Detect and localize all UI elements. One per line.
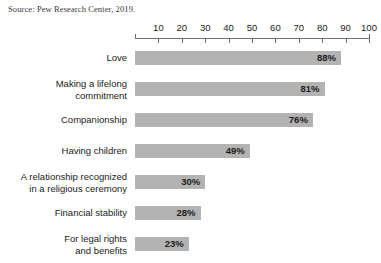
bar-value-label: 81% [301,83,320,94]
x-axis-tick-label: 90 [340,22,351,33]
x-axis-tick-mark [275,38,276,43]
bar-value-label: 88% [317,52,336,63]
category-label: A relationship recognized in a religious… [0,171,127,194]
bar-chart: Source: Pew Research Center, 2019. 10203… [0,0,381,263]
x-axis-tick-mark [252,38,253,43]
bar-row: Financial stability28% [0,206,381,220]
x-axis-tick-mark [299,38,300,43]
bar [135,113,313,127]
x-axis-tick-label: 40 [223,22,234,33]
x-axis-tick-mark [346,38,347,43]
x-axis-tick-label: 20 [177,22,188,33]
bar-row: Love88% [0,51,381,65]
x-axis-left-cap [135,34,136,39]
bar-value-label: 49% [226,145,245,156]
x-axis-tick-mark [158,38,159,43]
bar [135,51,341,65]
category-label: Love [0,52,127,64]
bar-value-label: 28% [177,207,196,218]
bar-value-label: 23% [165,238,184,249]
bar [135,82,325,96]
category-label: Making a lifelong commitment [0,78,127,101]
x-axis-tick-label: 70 [294,22,305,33]
x-axis-tick-mark [205,38,206,43]
bar-value-label: 76% [289,114,308,125]
x-axis-tick-label: 80 [317,22,328,33]
category-label: For legal rights and benefits [0,233,127,256]
bar-row: A relationship recognized in a religious… [0,175,381,189]
x-axis-tick-mark [182,38,183,43]
x-axis-tick-label: 10 [153,22,164,33]
category-label: Companionship [0,114,127,126]
x-axis-tick-mark [369,38,370,43]
x-axis-tick-label: 60 [270,22,281,33]
x-axis-tick-label: 30 [200,22,211,33]
category-label: Having children [0,145,127,157]
bar-row: Making a lifelong commitment81% [0,82,381,96]
category-label: Financial stability [0,207,127,219]
bar-row: Having children49% [0,144,381,158]
x-axis-tick-label: 100 [361,22,377,33]
bar-row: Companionship76% [0,113,381,127]
x-axis-tick-mark [322,38,323,43]
x-axis-tick-label: 50 [247,22,258,33]
bar-value-label: 30% [181,176,200,187]
bar-row: For legal rights and benefits23% [0,237,381,251]
source-note: Source: Pew Research Center, 2019. [8,4,135,14]
x-axis-tick-mark [229,38,230,43]
